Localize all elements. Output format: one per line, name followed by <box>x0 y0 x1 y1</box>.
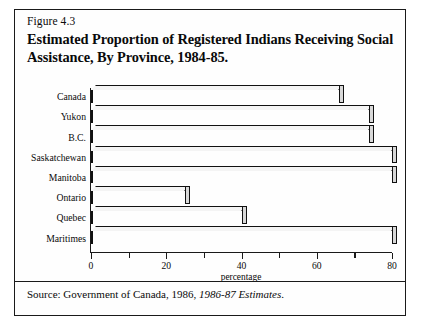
figure-frame: Figure 4.3 Estimated Proportion of Regis… <box>14 9 406 316</box>
category-label-maritimes: Maritimes <box>46 232 86 243</box>
x-tick-70 <box>354 253 355 258</box>
source-italic: 1986-87 Estimates <box>199 288 281 300</box>
bar-bc <box>91 130 369 143</box>
chart-plot-area: CanadaYukonB.C.SaskatchewanManitobaOntar… <box>15 82 407 281</box>
bar-front-face <box>91 211 93 224</box>
x-tick-80 <box>392 253 393 259</box>
bar-top-face <box>91 186 190 191</box>
category-label-yukon: Yukon <box>61 111 86 122</box>
bar-side-face <box>242 206 247 224</box>
category-label-canada: Canada <box>57 91 86 102</box>
bar-top-face <box>91 125 374 130</box>
bar-top-face <box>91 166 397 171</box>
x-tick-10 <box>129 253 130 258</box>
category-label-quebec: Quebec <box>56 212 86 223</box>
bar-manitoba <box>91 171 392 184</box>
bar-top-face <box>91 146 397 151</box>
bar-front-face <box>91 90 93 103</box>
bar-front-face <box>91 231 93 244</box>
category-label-bc: B.C. <box>68 131 86 142</box>
x-tick-0 <box>91 253 92 259</box>
source-note: Source: Government of Canada, 1986, 1986… <box>27 288 395 300</box>
bar-front-face <box>91 110 93 123</box>
bar-maritimes <box>91 231 392 244</box>
bar-ontario <box>91 191 185 204</box>
x-tick-label-60: 60 <box>312 260 322 271</box>
bar-top-face <box>91 85 344 90</box>
bar-side-face <box>392 166 397 184</box>
category-label-saskatchewan: Saskatchewan <box>31 151 86 162</box>
bar-front-face <box>91 151 93 164</box>
x-tick-20 <box>166 253 167 259</box>
x-tick-label-0: 0 <box>89 260 94 271</box>
x-tick-50 <box>279 253 280 258</box>
bar-top-face <box>91 226 397 231</box>
bar-saskatchewan <box>91 151 392 164</box>
x-tick-label-80: 80 <box>387 260 397 271</box>
bar-front-face <box>91 130 93 143</box>
figure-number: Figure 4.3 <box>27 15 75 27</box>
bar-yukon <box>91 110 369 123</box>
category-label-ontario: Ontario <box>56 192 86 203</box>
bar-side-face <box>185 186 190 204</box>
bar-quebec <box>91 211 242 224</box>
bar-side-face <box>369 105 374 123</box>
bar-side-face <box>339 85 344 103</box>
bar-front-face <box>91 191 93 204</box>
x-tick-60 <box>317 253 318 259</box>
bar-top-face <box>91 206 247 211</box>
footer-divider <box>15 281 405 282</box>
bar-side-face <box>392 226 397 244</box>
bar-front-face <box>91 171 93 184</box>
bar-side-face <box>369 125 374 143</box>
bar-top-face <box>91 105 374 110</box>
chart-title: Estimated Proportion of Registered India… <box>27 31 395 67</box>
bar-side-face <box>392 146 397 164</box>
bar-canada <box>91 90 339 103</box>
x-tick-label-40: 40 <box>237 260 247 271</box>
x-tick-40 <box>242 253 243 259</box>
x-tick-label-20: 20 <box>161 260 171 271</box>
category-label-manitoba: Manitoba <box>49 172 86 183</box>
x-tick-30 <box>204 253 205 258</box>
